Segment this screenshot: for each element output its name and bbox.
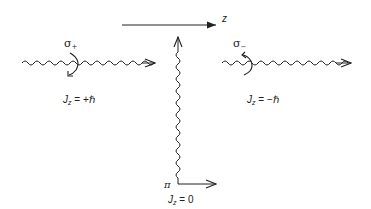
sigma-symbol: σ [233, 37, 241, 50]
jz-zero-label: Jz = 0 [168, 195, 193, 206]
jz-minus-label: Jz = −ℏ [247, 95, 279, 106]
sigma-symbol: σ [64, 37, 72, 50]
pi-wave [176, 37, 216, 184]
sigma-minus-subscript: − [241, 43, 247, 51]
diagram-canvas [0, 0, 371, 209]
pi-label: π [164, 180, 171, 190]
jz-plus-label: Jz = +ℏ [63, 95, 95, 106]
jz-subscript: z [173, 199, 177, 206]
sigma-plus-label: σ+ [64, 38, 77, 51]
jz-subscript: z [68, 99, 72, 106]
jz-value: = 0 [179, 194, 193, 205]
clockwise-rotation-icon [68, 53, 78, 76]
counterclockwise-rotation-icon [242, 52, 252, 75]
jz-value: = +ℏ [74, 94, 94, 105]
sigma-minus-label: σ− [233, 38, 246, 51]
sigma-plus-subscript: + [72, 43, 78, 51]
sigma-minus-wave [222, 61, 351, 65]
z-axis-label: z [222, 14, 227, 24]
jz-value: = −ℏ [258, 94, 278, 105]
sigma-plus-wave [22, 61, 155, 65]
jz-subscript: z [252, 99, 256, 106]
